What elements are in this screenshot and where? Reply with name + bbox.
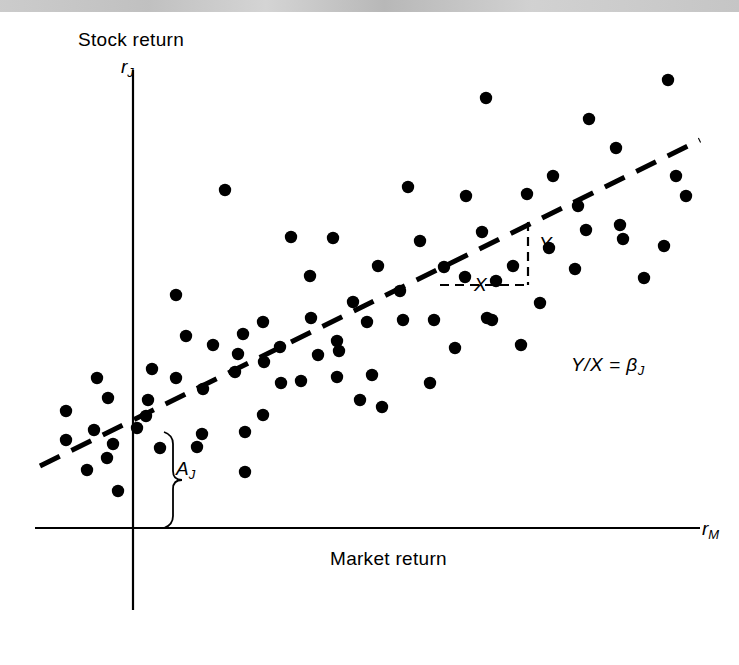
scatter-point [583, 113, 595, 125]
y-axis-title: Stock return [78, 30, 184, 49]
scatter-point [239, 426, 251, 438]
intercept-label: AJ [176, 459, 195, 481]
scatter-point [428, 314, 440, 326]
scatter-point [460, 190, 472, 202]
scatter-point [131, 422, 143, 434]
scatter-point [376, 401, 388, 413]
scatter-point [402, 181, 414, 193]
scatter-point [438, 261, 450, 273]
scatter-point [424, 377, 436, 389]
scatter-point [81, 464, 93, 476]
scatter-point [60, 405, 72, 417]
scatter-point [507, 260, 519, 272]
scatter-point [610, 142, 622, 154]
slope-rise-label: Y [539, 234, 552, 253]
scatter-point [521, 188, 533, 200]
scatter-point [662, 74, 674, 86]
scatter-points-group [60, 74, 692, 497]
scatter-point [170, 289, 182, 301]
scatter-point [547, 170, 559, 182]
scatter-point [197, 383, 209, 395]
scatter-point [312, 349, 324, 361]
x-axis-title: Market return [330, 549, 447, 568]
scatter-point [239, 466, 251, 478]
scatter-point [102, 392, 114, 404]
scatter-point [366, 369, 378, 381]
scatter-point [449, 342, 461, 354]
scatter-point [372, 260, 384, 272]
beta-equation-lhs: Y/X = [571, 354, 626, 375]
regression-line [40, 140, 700, 466]
scatter-point [257, 409, 269, 421]
scatter-point [170, 372, 182, 384]
scatter-point [680, 190, 692, 202]
scatter-point [257, 316, 269, 328]
scatter-point [295, 375, 307, 387]
scatter-point [107, 438, 119, 450]
scatter-point [112, 485, 124, 497]
beta-equation: Y/X = βJ [571, 355, 645, 377]
intercept-label-base: A [176, 458, 189, 479]
scatter-point [397, 314, 409, 326]
slope-run-label: X [474, 275, 487, 294]
scatter-point [274, 341, 286, 353]
scatter-point [154, 442, 166, 454]
scatter-point [617, 233, 629, 245]
scatter-point [60, 434, 72, 446]
beta-symbol: β [626, 354, 637, 375]
axes-group [35, 70, 700, 610]
scatter-point [534, 297, 546, 309]
scatter-point [515, 339, 527, 351]
regression-line-group [40, 140, 700, 466]
figure-root: Stock return Market return rJ rM Y X AJ … [0, 0, 739, 665]
scatter-point [304, 270, 316, 282]
scatter-point [142, 394, 154, 406]
scatter-point [580, 224, 592, 236]
scatter-point [614, 219, 626, 231]
scatter-point [219, 184, 231, 196]
scatter-point [285, 231, 297, 243]
scatter-point [480, 92, 492, 104]
scatter-point [229, 366, 241, 378]
scatter-point [414, 235, 426, 247]
scatter-point [486, 314, 498, 326]
scatter-point [394, 285, 406, 297]
scatter-point [333, 345, 345, 357]
scatter-point [572, 200, 584, 212]
scatter-point [101, 452, 113, 464]
scatter-point [490, 275, 502, 287]
scatter-point [569, 263, 581, 275]
intercept-label-subscript: J [189, 467, 196, 482]
scatter-point [459, 271, 471, 283]
scatter-point [361, 316, 373, 328]
scatter-point [146, 363, 158, 375]
scatter-point [91, 372, 103, 384]
scatter-point [327, 232, 339, 244]
x-axis-symbol: rM [702, 519, 719, 541]
scatter-point [331, 371, 343, 383]
scatter-point [180, 330, 192, 342]
scatter-point [476, 226, 488, 238]
scatter-point [305, 312, 317, 324]
scatter-point [191, 441, 203, 453]
scatter-point [140, 410, 152, 422]
scatter-point [670, 170, 682, 182]
scatter-point [347, 296, 359, 308]
beta-subscript: J [638, 363, 645, 378]
scatter-point [232, 348, 244, 360]
y-axis-symbol: rJ [121, 57, 134, 79]
scatter-point [275, 377, 287, 389]
x-axis-symbol-subscript: M [708, 527, 719, 542]
scatter-point [88, 424, 100, 436]
scatter-point [207, 339, 219, 351]
scatter-point [638, 272, 650, 284]
y-axis-symbol-subscript: J [127, 65, 134, 80]
scatter-point [237, 328, 249, 340]
scatter-point [196, 428, 208, 440]
scatter-point [658, 240, 670, 252]
scatter-point [258, 356, 270, 368]
scatter-point [354, 394, 366, 406]
